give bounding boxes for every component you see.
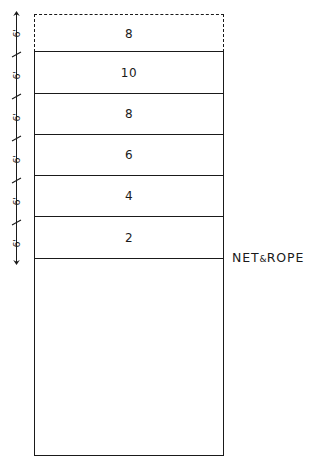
net-label: NET	[232, 250, 260, 265]
band-label: 8	[125, 107, 133, 121]
dimension-segment-label: 6'	[11, 193, 22, 211]
band-row: 6	[35, 135, 223, 176]
dimension-chain: 6' 6' 6' 6' 6' 6'	[10, 12, 28, 264]
band-row: 10	[35, 52, 223, 94]
diagram-canvas: 6' 6' 6' 6' 6' 6' 8 10 8 6 4 2 NET&ROPE	[0, 0, 320, 471]
net-and-rope-annotation: NET&ROPE	[232, 250, 304, 265]
band-label: 4	[125, 189, 133, 203]
dimension-segment-label: 6'	[11, 151, 22, 169]
dimension-segment-label: 6'	[11, 109, 22, 127]
band-label: 10	[121, 66, 137, 80]
dimension-arrow-bottom-icon	[12, 260, 21, 265]
band-row-net-line: 2	[35, 217, 223, 259]
rope-label: ROPE	[267, 250, 305, 265]
ampersand-label: &	[260, 254, 267, 264]
band-label: 6	[125, 148, 133, 162]
dimension-tick-icon	[11, 51, 22, 58]
band-row: 8	[35, 94, 223, 135]
band-row-open-area	[35, 259, 223, 455]
dimension-tick-icon	[11, 93, 22, 100]
band-label: 2	[125, 231, 133, 245]
band-row: 4	[35, 176, 223, 217]
dimension-segment-label: 6'	[11, 25, 22, 43]
dimension-tick-icon	[11, 135, 22, 142]
dimension-arrow-top-icon	[12, 11, 21, 16]
dimension-tick-icon	[11, 177, 22, 184]
court-rectangle: 10 8 6 4 2	[34, 51, 224, 456]
band-label: 8	[125, 27, 133, 41]
dimension-segment-label: 6'	[11, 67, 22, 85]
dashed-extension-band: 8	[34, 14, 224, 52]
dimension-segment-label: 6'	[11, 235, 22, 253]
dimension-tick-icon	[11, 219, 22, 226]
